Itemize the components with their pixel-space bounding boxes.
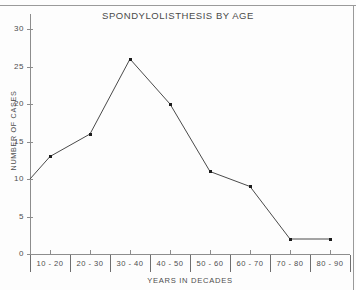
series-line <box>0 0 356 290</box>
data-point-80-90 <box>329 238 332 241</box>
chart-page: SPONDYLOLISTHESIS BY AGE NUMBER OF CASES… <box>0 0 356 290</box>
data-point-60-70 <box>249 185 252 188</box>
data-point-70-80 <box>289 238 292 241</box>
data-point-40-50 <box>169 103 172 106</box>
data-point-50-60 <box>209 170 212 173</box>
data-point-30-40 <box>129 58 132 61</box>
data-point-20-30 <box>89 133 92 136</box>
data-point-10-20 <box>49 155 52 158</box>
